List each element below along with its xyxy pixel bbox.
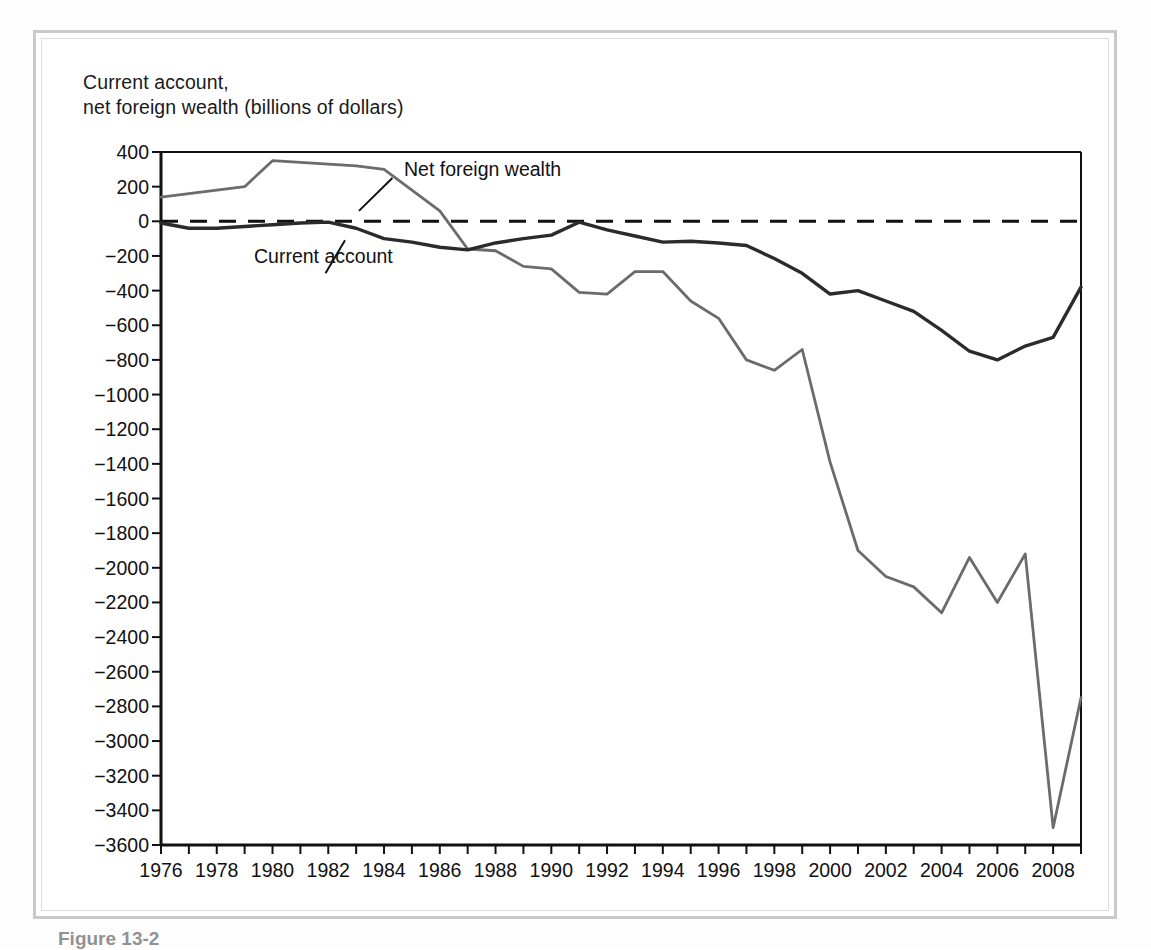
y-axis-tick-label: −3600 [39,834,149,857]
x-axis-tick-label: 1982 [307,859,350,882]
x-axis-tick-label: 1992 [585,859,628,882]
y-axis-tick-label: −400 [39,279,149,302]
chart-title-line1: Current account, [83,71,229,93]
x-axis-tick-label: 2000 [808,859,851,882]
x-axis-tick-label: 2002 [864,859,907,882]
chart-axis-title: Current account, net foreign wealth (bil… [83,70,404,120]
x-axis-tick-label: 1978 [195,859,238,882]
y-axis-tick-label: −1200 [39,418,149,441]
figure-frame [33,30,1117,919]
x-axis-tick-label: 1990 [530,859,573,882]
y-axis-tick-label: 0 [39,210,149,233]
y-axis-tick-label: −3400 [39,799,149,822]
x-axis-tick-label: 1998 [753,859,796,882]
figure-frame-inner-border [41,38,1109,911]
y-axis-tick-label: −2600 [39,660,149,683]
chart-title-line2: net foreign wealth (billions of dollars) [83,96,404,118]
x-axis-tick-label: 1976 [139,859,182,882]
x-axis-tick-label: 1986 [418,859,461,882]
y-axis-tick-label: 400 [39,141,149,164]
y-axis-tick-label: −3200 [39,764,149,787]
x-axis-tick-label: 1994 [641,859,684,882]
y-axis-tick-label: −800 [39,348,149,371]
annotation-current-account: Current account [254,245,393,268]
x-axis-tick-label: 1980 [251,859,294,882]
y-axis-tick-label: −1800 [39,522,149,545]
y-axis-tick-label: −2800 [39,695,149,718]
y-axis-tick-label: −2200 [39,591,149,614]
y-axis-tick-label: −1000 [39,383,149,406]
y-axis-tick-label: −200 [39,244,149,267]
y-axis-tick-label: −3000 [39,730,149,753]
x-axis-tick-label: 2006 [976,859,1019,882]
y-axis-tick-label: −1400 [39,452,149,475]
annotation-net-foreign-wealth: Net foreign wealth [404,158,561,181]
x-axis-tick-label: 2004 [920,859,963,882]
y-axis-tick-label: −1600 [39,487,149,510]
y-axis-tick-label: −2400 [39,626,149,649]
x-axis-tick-label: 1996 [697,859,740,882]
y-axis-tick-label: −600 [39,314,149,337]
x-axis-tick-label: 2008 [1031,859,1074,882]
y-axis-tick-label: −2000 [39,556,149,579]
figure-caption: Figure 13-2 [58,928,159,950]
y-axis-tick-label: 200 [39,175,149,198]
x-axis-tick-label: 1984 [362,859,405,882]
x-axis-tick-label: 1988 [474,859,517,882]
